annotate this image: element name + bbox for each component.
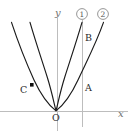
x-axis-label: x [118, 109, 124, 119]
point-a-label: A [85, 83, 92, 93]
point-b-label: B [85, 33, 92, 43]
parabola-figure: x y O B A C 1 2 [0, 0, 134, 137]
origin-label: O [52, 113, 60, 123]
parabola-curve-1 [30, 22, 82, 111]
point-c-label: C [20, 85, 27, 95]
figure-canvas [0, 0, 134, 137]
curve-badge-2-label: 2 [98, 11, 109, 19]
y-axis-label: y [55, 8, 61, 18]
point-c-marker [30, 83, 34, 87]
curve-badge-1-label: 1 [77, 11, 88, 19]
